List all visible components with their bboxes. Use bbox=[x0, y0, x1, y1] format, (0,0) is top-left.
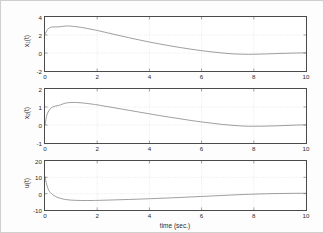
xtick-label: 8 bbox=[252, 212, 255, 219]
plot-canvas-x1 bbox=[45, 17, 306, 71]
ylabel-x1-base: x bbox=[23, 44, 30, 47]
plot-area-u bbox=[44, 160, 307, 211]
xtick-label: 8 bbox=[252, 73, 255, 80]
ylabel-x2-sub: 2 bbox=[26, 113, 31, 116]
xtick-label: 2 bbox=[95, 212, 98, 219]
xtick-label: 4 bbox=[148, 73, 151, 80]
xtick-label: 0 bbox=[43, 145, 46, 152]
plot-canvas-x2 bbox=[45, 89, 306, 143]
xtick-label: 0 bbox=[43, 73, 46, 80]
ytick-label: 1 bbox=[23, 104, 42, 111]
matlab-figure: x1(t) -2024 0246810 x2(t) -1012 0246810 … bbox=[0, 0, 324, 233]
xtick-label: 8 bbox=[252, 145, 255, 152]
xtick-label: 6 bbox=[200, 73, 203, 80]
xtick-label: 10 bbox=[303, 212, 310, 219]
ylabel-x2-base: x bbox=[23, 116, 30, 119]
ytick-label: 20 bbox=[23, 158, 42, 165]
data-curve-x2 bbox=[45, 102, 306, 126]
subplot-u bbox=[44, 160, 307, 211]
xtick-label: 10 bbox=[303, 145, 310, 152]
xtick-label: 10 bbox=[303, 73, 310, 80]
data-curve-x1 bbox=[45, 26, 306, 54]
ytick-label: 0 bbox=[23, 190, 42, 197]
ytick-label: -10 bbox=[23, 207, 42, 214]
xlabel-time: time (sec.) bbox=[160, 222, 190, 229]
ytick-label: 0 bbox=[23, 50, 42, 57]
ytick-label: 10 bbox=[23, 174, 42, 181]
xtick-label: 4 bbox=[148, 145, 151, 152]
ytick-label: -2 bbox=[23, 68, 42, 75]
data-curve-u bbox=[45, 177, 306, 201]
ylabel-x1-sub: 1 bbox=[26, 41, 31, 44]
xtick-label: 6 bbox=[200, 212, 203, 219]
subplot-x1 bbox=[44, 16, 307, 72]
plot-canvas-u bbox=[45, 161, 306, 210]
plot-area-x2 bbox=[44, 88, 307, 144]
xtick-label: 2 bbox=[95, 73, 98, 80]
xtick-label: 6 bbox=[200, 145, 203, 152]
ytick-label: 2 bbox=[23, 86, 42, 93]
xtick-label: 2 bbox=[95, 145, 98, 152]
xtick-label: 4 bbox=[148, 212, 151, 219]
ytick-label: 0 bbox=[23, 122, 42, 129]
ytick-label: 4 bbox=[23, 14, 42, 21]
xtick-label: 0 bbox=[43, 212, 46, 219]
subplot-x2 bbox=[44, 88, 307, 144]
ytick-label: -1 bbox=[23, 140, 42, 147]
plot-area-x1 bbox=[44, 16, 307, 72]
ytick-label: 2 bbox=[23, 32, 42, 39]
